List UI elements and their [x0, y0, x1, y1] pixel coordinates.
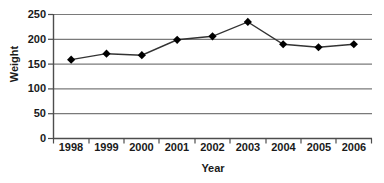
gridlines — [53, 15, 372, 114]
y-axis-title: Weight — [8, 24, 20, 104]
data-point-1998 — [67, 56, 75, 64]
y-tick-label-200: 200 — [16, 34, 46, 45]
data-point-2001 — [173, 36, 181, 44]
data-point-2006 — [350, 40, 358, 48]
y-tick-label-100: 100 — [16, 83, 46, 94]
y-tick-label-0: 0 — [16, 133, 46, 144]
y-axis-ticks — [48, 15, 53, 139]
data-series-line — [71, 22, 354, 60]
line-chart: 250 200 150 100 50 0 1998 1999 2000 2001… — [0, 0, 384, 183]
plot-area — [0, 0, 384, 183]
y-tick-label-50: 50 — [16, 108, 46, 119]
data-point-1999 — [102, 50, 110, 58]
data-point-markers — [67, 18, 358, 64]
y-tick-label-250: 250 — [16, 9, 46, 20]
data-point-2005 — [314, 43, 322, 51]
x-axis-title: Year — [53, 162, 373, 174]
x-tick-label-2006: 2006 — [332, 142, 376, 153]
data-point-2004 — [279, 40, 287, 48]
data-point-2003 — [244, 18, 252, 26]
data-point-2000 — [138, 51, 146, 59]
y-tick-label-150: 150 — [16, 59, 46, 70]
